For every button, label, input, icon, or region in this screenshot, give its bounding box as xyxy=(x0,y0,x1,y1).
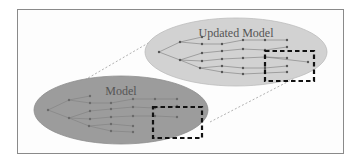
updated-model-group: Updated Model xyxy=(145,18,327,86)
model-label: Model xyxy=(105,84,137,98)
model-group: Model xyxy=(34,76,208,144)
model-update-diagram: Updated Model xyxy=(0,0,364,168)
updated-model-label: Updated Model xyxy=(199,26,275,40)
diagram-canvas: Updated Model xyxy=(0,0,364,168)
